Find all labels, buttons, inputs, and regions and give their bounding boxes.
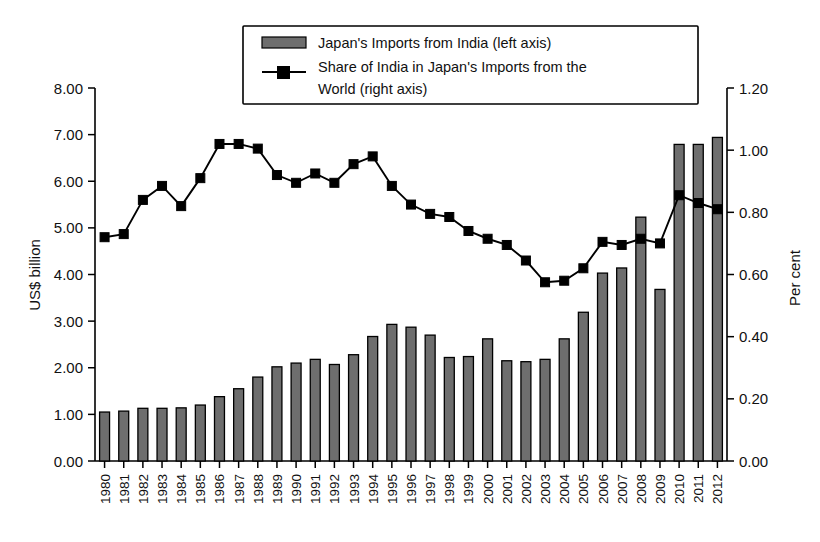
combo-chart: US$ billion Per cent 0.001.002.003.004.0… (0, 0, 820, 542)
legend-label-imports: Japan's Imports from India (left axis) (318, 35, 551, 51)
legend-label-share-line1: Share of India in Japan's Imports from t… (318, 59, 587, 75)
bar (406, 327, 416, 461)
legend-square-marker (277, 66, 290, 79)
bar (310, 359, 320, 461)
bar (291, 363, 301, 461)
line-marker (330, 178, 339, 187)
bar (636, 217, 646, 461)
legend-label-share-line2: World (right axis) (318, 81, 427, 97)
x-tick-label: 2010 (672, 474, 687, 504)
left-tick-label: 2.00 (54, 359, 83, 376)
x-tick-label: 2012 (710, 474, 725, 504)
line-marker (215, 139, 224, 148)
right-tick-label: 0.00 (739, 453, 768, 470)
line-marker (196, 174, 205, 183)
x-tick-label: 1992 (327, 474, 342, 504)
right-axis-title: Per cent (786, 249, 803, 306)
x-tick-label: 1984 (174, 474, 189, 505)
bar (444, 357, 454, 461)
bar (559, 339, 569, 461)
line-series (105, 144, 718, 282)
x-tick-label: 2003 (538, 474, 553, 504)
line-marker (138, 195, 147, 204)
bar (234, 389, 244, 461)
x-tick-label: 1988 (251, 474, 266, 504)
line-marker (387, 181, 396, 190)
x-tick-label: 1986 (212, 474, 227, 504)
line-marker (100, 233, 109, 242)
x-tick-label: 1983 (155, 474, 170, 504)
line-marker (177, 202, 186, 211)
x-tick-label: 2005 (576, 474, 591, 504)
right-axis-ticks: 0.000.200.400.600.801.001.20 (727, 80, 768, 470)
line-marker (158, 181, 167, 190)
x-tick-label: 2001 (500, 474, 515, 504)
chart-legend: Japan's Imports from India (left axis) S… (243, 26, 698, 104)
line-marker (675, 191, 684, 200)
bar (272, 367, 282, 461)
x-tick-label: 1994 (366, 474, 381, 505)
x-tick-label: 2007 (615, 474, 630, 504)
line-marker (636, 234, 645, 243)
line-marker (598, 237, 607, 246)
x-tick-label: 2002 (519, 474, 534, 504)
left-tick-label: 3.00 (54, 313, 83, 330)
line-marker (349, 160, 358, 169)
x-tick-label: 1985 (193, 474, 208, 504)
left-tick-label: 4.00 (54, 266, 83, 283)
line-marker (292, 178, 301, 187)
x-tick-label: 1996 (404, 474, 419, 504)
x-tick-label: 1997 (423, 474, 438, 504)
right-tick-label: 0.20 (739, 390, 768, 407)
x-tick-label: 1987 (232, 474, 247, 504)
line-marker (541, 278, 550, 287)
right-tick-label: 0.80 (739, 204, 768, 221)
line-marker (464, 226, 473, 235)
line-marker (713, 205, 722, 214)
line-marker (483, 234, 492, 243)
line-marker (407, 200, 416, 209)
line-marker (445, 212, 454, 221)
bar (463, 357, 473, 461)
share-line (105, 144, 718, 282)
line-marker (502, 240, 511, 249)
x-tick-label: 2011 (691, 474, 706, 503)
bar (349, 355, 359, 461)
bar (521, 362, 531, 461)
bar (540, 359, 550, 461)
line-marker (119, 230, 128, 239)
line-marker (253, 144, 262, 153)
bar (138, 408, 148, 461)
bar (617, 268, 627, 461)
bar (329, 364, 339, 461)
x-tick-label: 2008 (634, 474, 649, 504)
bar (157, 408, 167, 461)
chart-container: US$ billion Per cent 0.001.002.003.004.0… (0, 0, 820, 542)
bar (425, 335, 435, 461)
x-tick-label: 1995 (385, 474, 400, 504)
bar (100, 412, 110, 461)
line-marker (234, 139, 243, 148)
right-tick-label: 1.20 (739, 80, 768, 97)
x-tick-label: 1989 (270, 474, 285, 504)
x-tick-label: 1981 (117, 474, 132, 504)
x-tick-label: 1999 (461, 474, 476, 504)
bar (578, 312, 588, 461)
left-axis-ticks: 0.001.002.003.004.005.006.007.008.00 (54, 80, 95, 470)
x-tick-label: 2009 (653, 474, 668, 504)
line-marker (426, 209, 435, 218)
line-marker (655, 239, 664, 248)
bar (502, 361, 512, 461)
line-marker (617, 240, 626, 249)
line-marker (311, 169, 320, 178)
bar (176, 408, 186, 461)
bar (598, 273, 608, 461)
x-tick-label: 1993 (347, 474, 362, 504)
bar-series (100, 137, 723, 461)
left-tick-label: 7.00 (54, 126, 83, 143)
x-tick-label: 1990 (289, 474, 304, 504)
left-tick-label: 6.00 (54, 173, 83, 190)
left-axis-title: US$ billion (26, 239, 43, 311)
bar (253, 377, 263, 461)
line-markers (100, 139, 722, 286)
